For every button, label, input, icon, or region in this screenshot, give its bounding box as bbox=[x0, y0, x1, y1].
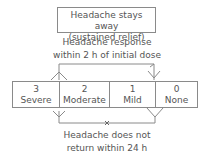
sustained-relief-line1: Headache stays away bbox=[58, 10, 155, 32]
scale-cell-moderate: 2 Moderate bbox=[60, 82, 110, 107]
scale-label: Mild bbox=[110, 95, 155, 106]
no-return-line1: Headache does not bbox=[50, 129, 164, 142]
scale-label: Severe bbox=[13, 95, 59, 106]
scale-cell-mild: 1 Mild bbox=[110, 82, 156, 107]
scale-value: 2 bbox=[60, 84, 109, 95]
pain-scale: 3 Severe 2 Moderate 1 Mild 0 None bbox=[12, 81, 198, 108]
headache-response-line2: within 2 h of initial dose bbox=[40, 49, 174, 62]
chevron-down-icon bbox=[147, 108, 163, 117]
scale-label: None bbox=[156, 95, 197, 106]
scale-cell-none: 0 None bbox=[156, 82, 197, 107]
headache-response-line1: Headache response bbox=[40, 36, 174, 49]
headache-response-label: Headache response within 2 h of initial … bbox=[40, 36, 174, 62]
scale-cell-severe: 3 Severe bbox=[13, 82, 60, 107]
scale-value: 3 bbox=[13, 84, 59, 95]
scale-value: 0 bbox=[156, 84, 197, 95]
no-return-line2: return within 24 h bbox=[50, 142, 164, 155]
scale-value: 1 bbox=[110, 84, 155, 95]
scale-label: Moderate bbox=[60, 95, 109, 106]
no-return-label: Headache does not return within 24 h bbox=[50, 129, 164, 155]
sustained-relief-box: Headache stays away (sustained relief) bbox=[57, 7, 156, 33]
